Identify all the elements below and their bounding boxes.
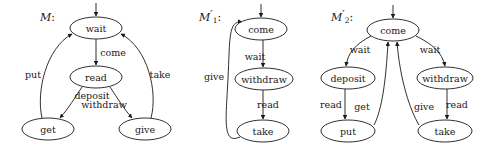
edge-label-wait-m1: wait [245,51,266,62]
edge-label-put: put [25,69,41,80]
edge-label-withdraw: withdraw [81,99,127,110]
node-put-m2[interactable]: put [321,120,375,142]
machine-M1-prime-title: M′1: [198,8,221,25]
state-machine-diagrams: M: come deposit withdraw put take wait [0,0,490,153]
node-deposit-m2-label: deposit [330,73,365,84]
node-put-m2-label: put [340,126,356,137]
node-withdraw-m2-label: withdraw [422,73,468,84]
node-come-m1-label: come [248,24,274,35]
node-take-m1[interactable]: take [237,120,289,142]
node-withdraw-m2[interactable]: withdraw [417,67,473,89]
node-withdraw-m1-label: withdraw [241,74,287,85]
edge-put-to-come-m2 [374,42,388,125]
edge-label-give-m2: give [414,101,434,112]
node-get[interactable]: get [22,118,74,140]
machine-M: M: come deposit withdraw put take wait [22,3,171,140]
node-get-label: get [40,124,56,135]
node-come-m2[interactable]: come [367,19,419,41]
node-come-m2-label: come [380,25,406,36]
node-read-label: read [85,72,107,83]
machine-M2-prime: M′2: wait wait read read get give [320,5,473,142]
edge-label-read-m1: read [257,99,279,110]
node-withdraw-m1[interactable]: withdraw [235,68,293,90]
edge-label-wait-right-m2: wait [420,44,441,55]
node-come-m1[interactable]: come [235,18,287,40]
node-take-m1-label: take [253,126,274,137]
edge-label-read-right-m2: read [446,99,468,110]
figure-canvas: M: come deposit withdraw put take wait [0,0,490,153]
edge-label-read-left-m2: read [320,99,342,110]
node-wait-label: wait [86,23,107,34]
machine-M-title: M: [39,11,55,24]
edge-take-to-come-m2 [397,42,419,125]
edge-label-take: take [150,69,171,80]
node-give-label: give [135,124,155,135]
edge-label-wait-left-m2: wait [350,44,371,55]
node-read[interactable]: read [70,66,122,88]
node-take-m2[interactable]: take [418,120,472,142]
node-take-m2-label: take [435,126,456,137]
machine-M2-prime-title: M′2: [330,8,353,25]
edge-get-to-wait [40,34,72,118]
node-deposit-m2[interactable]: deposit [321,67,375,89]
edge-label-get-m2: get [354,101,370,112]
node-give[interactable]: give [119,118,171,140]
node-wait[interactable]: wait [70,17,122,39]
machine-M1-prime: M′1: wait read give come withdraw [198,4,293,142]
edge-label-come: come [100,47,126,58]
edge-label-give-m1: give [204,71,224,82]
